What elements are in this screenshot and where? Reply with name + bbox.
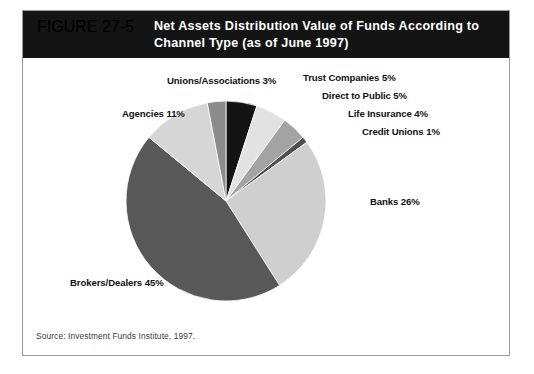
pie-label-brokers-dealers: Brokers/Dealers 45% <box>70 277 164 288</box>
figure-title-line-2: Channel Type (as of June 1997) <box>154 35 499 52</box>
pie-label-life-insurance: Life Insurance 4% <box>348 108 428 119</box>
pie-label-banks: Banks 26% <box>370 196 420 207</box>
figure-number: FIGURE 27-5 <box>37 18 134 36</box>
pie-chart <box>124 99 328 303</box>
pie-label-agencies: Agencies 11% <box>122 108 185 119</box>
figure-container: FIGURE 27-5 Net Assets Distribution Valu… <box>22 10 510 356</box>
pie-label-trust-companies: Trust Companies 5% <box>303 72 396 83</box>
figure-title-line-1: Net Assets Distribution Value of Funds A… <box>154 18 499 35</box>
figure-header-banner: FIGURE 27-5 Net Assets Distribution Valu… <box>23 11 509 58</box>
figure-title: Net Assets Distribution Value of Funds A… <box>154 18 499 52</box>
pie-slice-group <box>126 101 326 301</box>
chart-plot-area: Unions/Associations 3% Trust Companies 5… <box>23 58 509 355</box>
pie-label-credit-unions: Credit Unions 1% <box>362 126 440 137</box>
pie-label-direct-to-public: Direct to Public 5% <box>322 90 407 101</box>
pie-label-unions-associations: Unions/Associations 3% <box>167 75 276 86</box>
source-note: Source: Investment Funds Institute, 1997… <box>36 331 195 341</box>
